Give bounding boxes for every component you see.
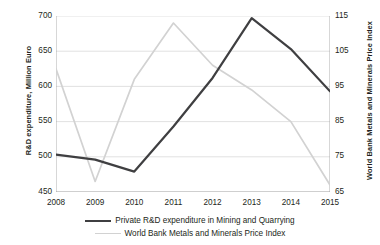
legend-item-label: World Bank Metals and Minerals Price Ind…	[125, 229, 286, 238]
plot-svg	[56, 16, 330, 192]
left-axis-tick-label: 450	[26, 187, 52, 196]
right-y-axis-title: World Bank Metals and Minerals Price Ind…	[365, 16, 374, 186]
x-axis-tick-label: 2009	[78, 198, 112, 207]
x-axis-tick-label: 2011	[156, 198, 190, 207]
left-axis-tick-label: 600	[26, 81, 52, 90]
right-axis-tick-label: 75	[335, 151, 361, 160]
right-axis-tick-label: 105	[335, 46, 361, 55]
chart-legend: Private R&D expenditure in Mining and Qu…	[0, 214, 380, 240]
x-axis-tick-label: 2013	[235, 198, 269, 207]
left-axis-tick-label: 650	[26, 46, 52, 55]
right-axis-tick-label: 85	[335, 116, 361, 125]
x-axis-tick-label: 2014	[274, 198, 308, 207]
legend-item[interactable]: World Bank Metals and Minerals Price Ind…	[0, 227, 380, 240]
x-axis-tick-label: 2015	[313, 198, 347, 207]
right-axis-tick-label: 65	[335, 187, 361, 196]
left-axis-tick-label: 700	[26, 11, 52, 20]
right-axis-tick-label: 115	[335, 11, 361, 20]
light-line-swatch	[95, 233, 121, 234]
dark-line-swatch	[85, 220, 111, 222]
x-axis-tick-label: 2008	[39, 198, 73, 207]
x-axis-tick-label: 2010	[117, 198, 151, 207]
legend-item[interactable]: Private R&D expenditure in Mining and Qu…	[0, 214, 380, 227]
dual-axis-line-chart: R&D expenditure, Million Euro World Bank…	[0, 0, 380, 245]
series-line	[56, 18, 330, 171]
left-axis-tick-label: 500	[26, 151, 52, 160]
right-axis-tick-label: 95	[335, 81, 361, 90]
left-axis-tick-label: 550	[26, 116, 52, 125]
x-axis-tick-label: 2012	[196, 198, 230, 207]
legend-item-label: Private R&D expenditure in Mining and Qu…	[115, 216, 294, 225]
plot-area	[56, 16, 330, 192]
